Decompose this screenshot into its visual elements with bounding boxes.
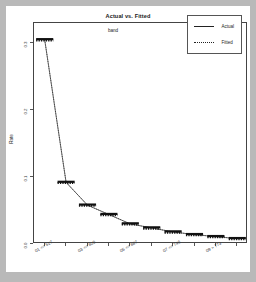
legend-label-fitted: Fitted xyxy=(221,40,232,45)
legend-key-dotted-line-icon xyxy=(194,42,214,43)
x-tick-mark xyxy=(151,243,152,246)
plot-box xyxy=(33,22,247,243)
legend-key-solid-line-icon xyxy=(194,26,214,27)
x-tick-mark xyxy=(65,243,66,246)
plot-area xyxy=(34,23,246,242)
series-canvas xyxy=(34,23,246,242)
series-fitted xyxy=(36,40,246,240)
x-tick-mark xyxy=(108,243,109,246)
y-tick-label: 0.0 xyxy=(23,242,28,248)
legend-entry-actual: Actual xyxy=(194,22,234,31)
y-axis: 0.00.10.20.3 xyxy=(6,22,33,243)
x-tick-label: 09 > 773 xyxy=(205,241,222,254)
x-tick-mark xyxy=(236,243,237,246)
x-tick-mark xyxy=(194,243,195,246)
chart-card: Actual vs. Fitted 0.00.10.20.3 Rate 01 <… xyxy=(6,6,250,272)
x-axis: 01 <= 51703 <= 60505 <= 66707 <= 74609 >… xyxy=(33,243,247,273)
legend: Actual Fitted xyxy=(187,15,242,54)
y-tick-label: 0.2 xyxy=(23,108,28,114)
y-axis-label: Rate xyxy=(9,134,14,144)
series-actual xyxy=(36,39,246,239)
y-tick-label: 0.1 xyxy=(23,175,28,181)
y-tick-label: 0.3 xyxy=(23,42,28,48)
chart-screenshot: Actual vs. Fitted 0.00.10.20.3 Rate 01 <… xyxy=(0,0,256,282)
legend-entry-fitted: Fitted xyxy=(194,38,234,47)
legend-label-actual: Actual xyxy=(221,24,234,29)
